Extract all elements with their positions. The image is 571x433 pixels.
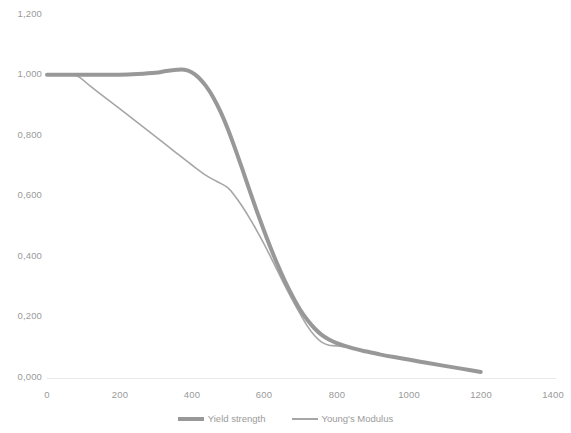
y-axis-tick-0800: 0,800 (0, 130, 42, 140)
legend-swatch-yield-strength-icon (178, 417, 204, 421)
x-axis-tick-1200: 1200 (461, 390, 501, 400)
chart-container: 1,200 1,000 0,800 0,600 0,400 0,200 0,00… (0, 0, 571, 433)
legend-label-yield-strength: Yield strength (208, 414, 266, 424)
y-axis-tick-0200: 0,200 (0, 311, 42, 321)
x-axis-tick-1400: 1400 (533, 390, 571, 400)
legend-label-youngs-modulus: Young's Modulus (322, 414, 394, 424)
y-axis-tick-0400: 0,400 (0, 251, 42, 261)
x-axis-tick-400: 400 (172, 390, 212, 400)
series-line-youngs-modulus (47, 74, 481, 372)
legend-item-yield-strength[interactable]: Yield strength (178, 414, 266, 424)
y-axis-tick-0000: 0,000 (0, 372, 42, 382)
x-axis-tick-600: 600 (244, 390, 284, 400)
x-axis-tick-800: 800 (317, 390, 357, 400)
series-line-yield-strength (47, 70, 481, 372)
legend-item-youngs-modulus[interactable]: Young's Modulus (292, 414, 394, 424)
y-axis-tick-1000: 1,000 (0, 69, 42, 79)
x-axis-tick-200: 200 (100, 390, 140, 400)
y-axis-tick-0600: 0,600 (0, 190, 42, 200)
x-axis-tick-1000: 1000 (389, 390, 429, 400)
chart-plot-area (0, 0, 571, 433)
chart-legend: Yield strength Young's Modulus (0, 414, 571, 424)
legend-swatch-youngs-modulus-icon (292, 418, 318, 420)
x-axis-tick-0: 0 (27, 390, 67, 400)
y-axis-tick-1200: 1,200 (0, 9, 42, 19)
